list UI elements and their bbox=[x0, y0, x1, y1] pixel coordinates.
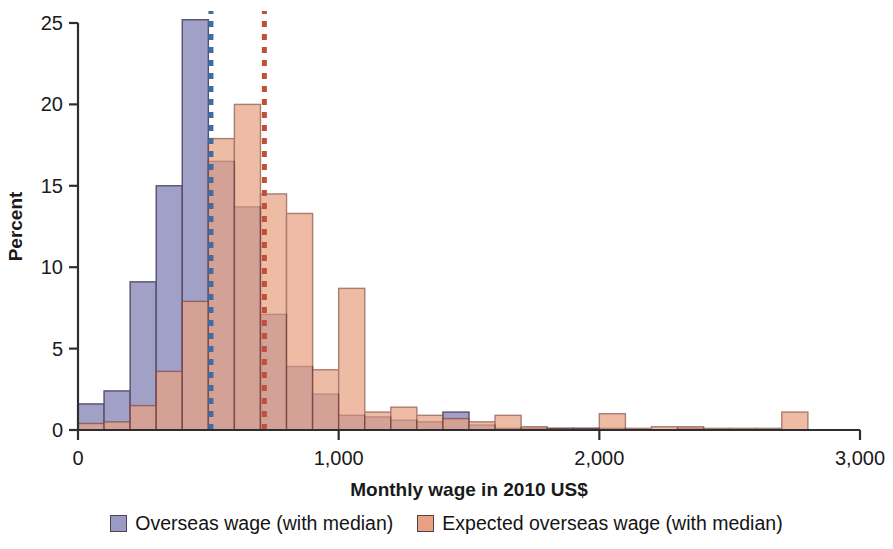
histogram-bar bbox=[182, 301, 208, 430]
y-tick-label: 15 bbox=[41, 175, 63, 197]
histogram-bar bbox=[287, 213, 313, 430]
y-tick-label: 0 bbox=[52, 419, 63, 441]
chart-figure: 051015202501,0002,0003,000 Percent Month… bbox=[0, 0, 893, 549]
histogram-bar bbox=[156, 371, 182, 430]
histogram-bar bbox=[130, 406, 156, 430]
histogram-bar bbox=[339, 288, 365, 430]
histogram-plot: 051015202501,0002,0003,000 Percent Month… bbox=[0, 0, 893, 549]
legend-swatch-expected-overseas-wage bbox=[417, 515, 434, 532]
histogram-bar bbox=[599, 414, 625, 430]
bars-layer bbox=[78, 20, 808, 430]
legend-label-expected-overseas-wage: Expected overseas wage (with median) bbox=[442, 512, 782, 535]
x-axis-title: Monthly wage in 2010 US$ bbox=[350, 479, 588, 500]
y-tick-label: 20 bbox=[41, 93, 63, 115]
legend-swatch-overseas-wage bbox=[110, 515, 127, 532]
legend-item: Expected overseas wage (with median) bbox=[417, 512, 782, 535]
legend-item: Overseas wage (with median) bbox=[110, 512, 393, 535]
y-tick-label: 25 bbox=[41, 12, 63, 34]
histogram-bar bbox=[313, 370, 339, 430]
x-tick-label: 2,000 bbox=[574, 447, 624, 469]
legend-label-overseas-wage: Overseas wage (with median) bbox=[135, 512, 393, 535]
x-tick-label: 0 bbox=[72, 447, 83, 469]
histogram-bar bbox=[104, 422, 130, 430]
histogram-bar bbox=[469, 422, 495, 430]
histogram-bar bbox=[234, 104, 260, 430]
histogram-bar bbox=[443, 419, 469, 430]
histogram-bar bbox=[391, 407, 417, 430]
y-tick-label: 5 bbox=[52, 338, 63, 360]
chart-legend: Overseas wage (with median) Expected ove… bbox=[0, 512, 893, 535]
histogram-bar bbox=[495, 415, 521, 430]
y-tick-label: 10 bbox=[41, 256, 63, 278]
histogram-bar bbox=[417, 415, 443, 430]
y-axis-title: Percent bbox=[5, 191, 26, 261]
x-tick-label: 1,000 bbox=[314, 447, 364, 469]
histogram-bar bbox=[365, 412, 391, 430]
histogram-bar bbox=[782, 412, 808, 430]
histogram-series bbox=[78, 20, 704, 430]
x-tick-label: 3,000 bbox=[835, 447, 885, 469]
